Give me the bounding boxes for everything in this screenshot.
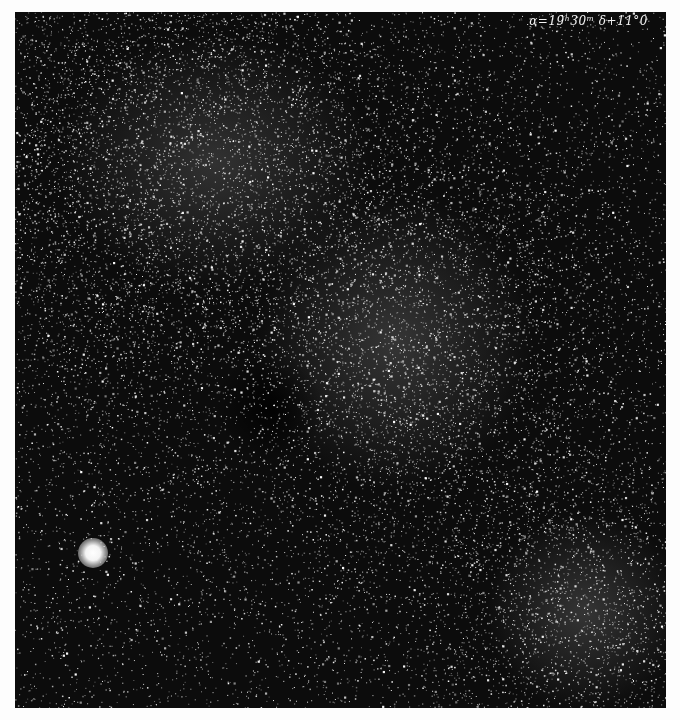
stars-canvas	[15, 12, 666, 708]
star-field-plate: α=19ʰ30ᵐ δ+11°0	[15, 12, 666, 708]
bright-star	[78, 538, 108, 568]
coordinate-annotation: α=19ʰ30ᵐ δ+11°0	[529, 14, 648, 28]
